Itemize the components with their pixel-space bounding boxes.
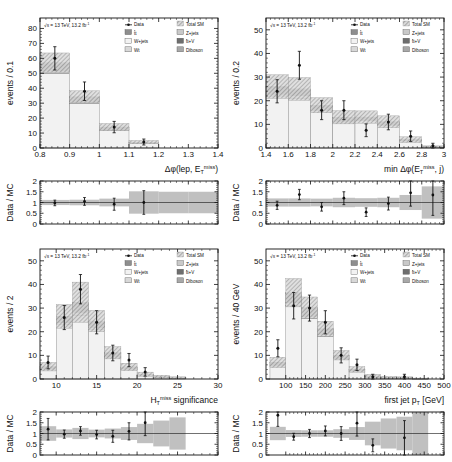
data-marker (79, 288, 82, 291)
x-tick-label: 1 (97, 150, 102, 159)
y-tick-label: 80 (28, 24, 37, 33)
ratio-marker (47, 428, 50, 431)
y-tick-label: 0 (33, 375, 38, 384)
y-tick-label: 40 (28, 280, 37, 289)
legend-label: Wt (134, 48, 140, 53)
ratio-marker (387, 202, 390, 205)
legend-label: Data (360, 22, 370, 27)
stack-bin (333, 122, 355, 148)
ratio-marker (340, 432, 343, 435)
ratio-y-tick-label: 2 (259, 177, 264, 186)
x-tick-label: 1.8 (305, 150, 317, 159)
y-tick-label: 50 (254, 257, 263, 266)
ratio-y-tick-label: 2 (33, 177, 38, 186)
ratio-marker (308, 432, 311, 435)
y-tick-label: 10 (254, 120, 263, 129)
legend: DataTotal SMttZ+jetsW+jetstt+VWtDiboson (351, 21, 430, 53)
legend-swatch (351, 30, 358, 35)
y-tick-label: 10 (254, 351, 263, 360)
data-marker (95, 321, 98, 324)
y-axis-title: events / 2 (5, 295, 15, 332)
data-marker (47, 361, 50, 364)
data-marker (324, 321, 327, 324)
ratio-y-tick-label: 0.5 (26, 209, 38, 218)
ratio-y-tick-label: 0 (259, 220, 264, 229)
ratio-marker (142, 201, 145, 204)
panel-first-jet-pt: 10015020025030035040045050001020304050ev… (226, 231, 452, 462)
legend-label: tt+V (186, 270, 195, 275)
legend-label: tt (360, 262, 363, 267)
stack-bin (317, 336, 333, 379)
legend-swatch-total-sm (403, 21, 410, 26)
legend-swatch (125, 269, 132, 274)
legend-label: tt (134, 262, 137, 267)
data-marker (355, 363, 358, 366)
lumi-label: √s = 13 TeV, 13.2 fb-1 (44, 253, 89, 259)
ratio-y-tick-label: 0.5 (252, 209, 264, 218)
ratio-marker (342, 197, 345, 200)
data-marker (128, 359, 131, 362)
stack-bin (72, 315, 88, 379)
data-marker (292, 304, 295, 307)
ratio-marker (356, 422, 359, 425)
stack-bin (89, 329, 105, 379)
legend-label: Z+jets (412, 262, 425, 267)
y-tick-label: 30 (254, 73, 263, 82)
y-tick-label: 70 (28, 39, 37, 48)
ratio-marker (276, 204, 279, 207)
panel-htmiss-significance: 101520253001020304050events / 2HTmiss si… (0, 231, 226, 462)
data-marker (298, 64, 301, 67)
x-tick-label: 150 (299, 381, 313, 390)
legend-label: Total SM (412, 22, 430, 27)
legend-swatch (403, 261, 410, 266)
y-tick-label: 0 (33, 144, 38, 153)
ratio-y-tick-label: 1.5 (26, 188, 38, 197)
ratio-y-tick-label: 0 (259, 451, 264, 460)
legend-swatch (403, 38, 410, 43)
ratio-marker (128, 430, 131, 433)
legend-label: W+jets (360, 39, 375, 44)
y-tick-label: 0 (259, 375, 264, 384)
data-marker (83, 90, 86, 93)
ratio-panel: 00.511.52 (252, 408, 444, 460)
lumi-label: √s = 13 TeV, 13.2 fb-1 (270, 22, 315, 28)
y-axis-title: events / 0.2 (231, 61, 241, 105)
x-tick-label: 300 (358, 381, 372, 390)
x-tick-label: 200 (319, 381, 333, 390)
x-tick-label: 2.4 (372, 150, 384, 159)
legend-label: tt+V (412, 39, 421, 44)
legend-label: Diboson (186, 279, 203, 284)
x-tick-label: 350 (378, 381, 392, 390)
legend-label: Data (134, 22, 144, 27)
x-tick-label: 0.9 (64, 150, 76, 159)
ratio-marker (79, 430, 82, 433)
data-marker (53, 57, 56, 60)
x-tick-label: 500 (437, 381, 451, 390)
legend-swatch (125, 261, 132, 266)
data-marker (113, 126, 116, 129)
x-tick-label: 2.6 (394, 150, 406, 159)
legend-swatch (177, 30, 184, 35)
y-tick-label: 0 (259, 144, 264, 153)
x-axis-title: HTmiss significance (150, 395, 218, 406)
figure-grid: 0.80.911.11.21.31.401020304050607080even… (0, 0, 452, 462)
y-tick-label: 60 (28, 54, 37, 63)
legend: DataTotal SMttZ+jetsW+jetstt+VWtDiboson (125, 252, 204, 284)
x-tick-label: 25 (173, 381, 182, 390)
legend-marker-data (127, 255, 130, 258)
legend-swatch (125, 47, 132, 52)
y-tick-label: 30 (254, 304, 263, 313)
ratio-marker (320, 205, 323, 208)
lumi-label: √s = 13 TeV, 13.2 fb-1 (270, 253, 315, 259)
plot-dphi-lep-met: 0.80.911.11.21.31.401020304050607080even… (0, 0, 226, 231)
legend-swatch (177, 269, 184, 274)
y-tick-label: 20 (28, 328, 37, 337)
legend-swatch (351, 261, 358, 266)
y-tick-label: 10 (28, 129, 37, 138)
ratio-panel: 00.511.52 (26, 408, 218, 460)
ratio-y-tick-label: 2 (259, 408, 264, 417)
legend-swatch (177, 261, 184, 266)
ratio-y-tick-label: 1 (33, 430, 38, 439)
panel-min-dphi-met-jet: 1.41.61.822.22.42.62.8301020304050events… (226, 0, 452, 231)
ratio-marker (63, 433, 66, 436)
